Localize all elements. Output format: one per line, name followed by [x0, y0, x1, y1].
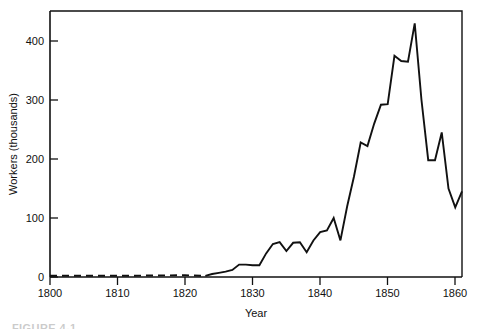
x-tick-label-1850: 1850	[375, 287, 399, 299]
figure-container: 400 300 200 100 0 1800 1810 1820 1830 18…	[0, 0, 483, 330]
x-tick-label-1810: 1810	[105, 287, 129, 299]
series-line-solid	[205, 23, 462, 276]
y-axis-ticks	[50, 41, 58, 277]
y-tick-label-300: 300	[26, 94, 44, 106]
x-axis-ticks	[50, 277, 455, 285]
x-tick-label-1800: 1800	[38, 287, 62, 299]
x-axis-tick-labels: 1800 1810 1820 1830 1840 1850 1860	[38, 287, 467, 299]
line-chart: 400 300 200 100 0 1800 1810 1820 1830 18…	[0, 0, 483, 330]
y-tick-label-0: 0	[38, 271, 44, 283]
y-axis-tick-labels: 400 300 200 100 0	[26, 35, 44, 283]
y-tick-label-400: 400	[26, 35, 44, 47]
x-tick-label-1840: 1840	[308, 287, 332, 299]
data-series-group	[50, 23, 462, 276]
y-tick-label-100: 100	[26, 212, 44, 224]
x-tick-label-1860: 1860	[443, 287, 467, 299]
plot-frame	[50, 11, 462, 277]
figure-caption-partial: FIGURE 4-1	[12, 323, 162, 329]
x-tick-label-1820: 1820	[173, 287, 197, 299]
x-tick-label-1830: 1830	[240, 287, 264, 299]
series-line-dashed	[50, 275, 205, 276]
x-axis-title: Year	[245, 307, 268, 319]
y-tick-label-200: 200	[26, 153, 44, 165]
y-axis-title: Workers (thousands)	[7, 93, 19, 195]
